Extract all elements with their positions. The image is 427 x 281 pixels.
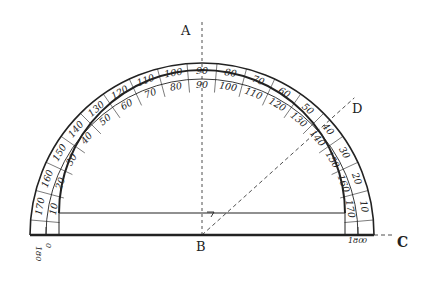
scale-divider	[214, 64, 217, 93]
scale-number: 170	[33, 196, 47, 216]
end-label-right-inner: 180	[348, 236, 363, 245]
scale-divider	[187, 64, 190, 93]
scale-number: 100	[218, 79, 238, 93]
scale-divider	[31, 220, 60, 223]
scale-number: 80	[224, 66, 238, 79]
scale-number: 170	[344, 199, 358, 219]
protractor-diagram: 1020304050607080901001101201301401501601…	[0, 0, 427, 281]
scale-number: 110	[243, 85, 264, 102]
point-label-d: D	[352, 101, 362, 116]
point-label-a: A	[180, 23, 191, 38]
scale-number: 60	[119, 96, 135, 112]
scale-number: 160	[336, 173, 353, 194]
point-label-c: C	[397, 234, 408, 250]
scale-number: 20	[52, 176, 67, 192]
end-label-left-inner: 0	[44, 243, 53, 248]
end-label-right-outer: 0	[362, 236, 367, 245]
end-label-left-outer: 180	[34, 246, 43, 261]
scale-number: 10	[47, 202, 60, 216]
scale-number: 70	[143, 86, 158, 100]
scale-number: 30	[63, 152, 79, 168]
scale-number: 80	[169, 80, 183, 93]
point-label-b: B	[196, 239, 206, 254]
scale-number: 100	[163, 66, 183, 80]
scale-number: 40	[78, 130, 95, 147]
scale-number: 10	[358, 199, 371, 213]
scale-divider	[344, 220, 373, 223]
